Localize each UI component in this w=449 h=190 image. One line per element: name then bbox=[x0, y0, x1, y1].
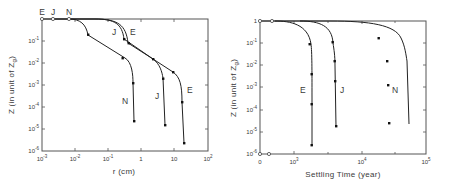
right-curve-j bbox=[275, 21, 336, 127]
left-markers bbox=[87, 34, 185, 145]
right-x-tick-label: 104 bbox=[357, 157, 367, 165]
left-curve-j bbox=[53, 19, 165, 125]
right-y-tick-label: 10-5 bbox=[246, 127, 257, 135]
right-curve-label-n: N bbox=[392, 85, 398, 95]
left-y-tick-label: 10-4 bbox=[28, 102, 39, 110]
left-y-tick-label: 10-5 bbox=[28, 124, 39, 132]
left-x-tick-label: 10-3 bbox=[37, 154, 48, 162]
right-open-marker-origin bbox=[258, 19, 261, 22]
right-open-marker-bottom bbox=[267, 152, 270, 155]
right-open-marker-bottom bbox=[258, 152, 261, 155]
left-top-label-n: N bbox=[66, 7, 72, 17]
right-markers bbox=[309, 37, 391, 146]
left-x-tick-label: 10-2 bbox=[70, 154, 81, 162]
right-curve-n bbox=[300, 21, 409, 124]
left-curve-label-j: J bbox=[112, 27, 116, 37]
left-open-marker-e bbox=[40, 17, 43, 20]
right-x-tick-label: 0 bbox=[258, 159, 262, 165]
left-x-tick-label: 10-1 bbox=[103, 154, 114, 162]
right-x-ticks bbox=[294, 21, 395, 154]
left-curve-label-e: E bbox=[130, 27, 136, 37]
right-open-marker bbox=[270, 19, 273, 22]
right-y-tick-label: 10-2 bbox=[246, 60, 257, 68]
left-x-tick-label: 10 bbox=[171, 156, 178, 162]
right-y-tick-label: 10-4 bbox=[246, 105, 257, 113]
left-y-tick-label: 10-6 bbox=[28, 146, 39, 154]
left-top-label-e: E bbox=[39, 7, 45, 17]
right-chart: 0 103 104 105 1 10-1 10-2 10-3 10-4 10-5… bbox=[229, 18, 431, 179]
right-y-tick-label: 10-1 bbox=[246, 38, 257, 46]
left-chart: 10-3 10-2 10-1 1 10 102 10-1 10-2 10-3 1… bbox=[7, 7, 213, 176]
right-y-tick-label: 1 bbox=[254, 18, 258, 24]
right-y-tick-label: 10-6 bbox=[246, 149, 257, 157]
right-curve-e bbox=[260, 21, 312, 146]
right-curve-label-j: J bbox=[340, 85, 344, 95]
left-curve-label-j2: J bbox=[155, 91, 159, 101]
right-x-tick-label: 103 bbox=[289, 157, 299, 165]
left-x-axis-label: r (cm) bbox=[113, 167, 136, 176]
left-y-axis-label: Z (in unit of Zg) bbox=[7, 56, 17, 114]
left-curve-label-n: N bbox=[122, 96, 128, 106]
right-x-axis-label: Settling Time (year) bbox=[305, 170, 380, 179]
left-open-marker-n bbox=[67, 17, 70, 20]
left-y-tick-label: 10-2 bbox=[28, 58, 39, 66]
right-x-tick-label: 105 bbox=[421, 157, 431, 165]
right-curve-label-e: E bbox=[300, 85, 306, 95]
left-open-marker-j bbox=[51, 17, 54, 20]
left-curve-label-e2: E bbox=[187, 85, 193, 95]
left-y-tick-label: 10-1 bbox=[28, 36, 39, 44]
right-y-axis-label: Z (in unit of Zg) bbox=[229, 59, 239, 117]
left-y-tick-label: 10-3 bbox=[28, 80, 39, 88]
left-top-label-j: J bbox=[51, 7, 55, 17]
left-x-tick-label: 1 bbox=[139, 156, 143, 162]
right-y-tick-label: 10-3 bbox=[246, 82, 257, 90]
figure: 10-3 10-2 10-1 1 10 102 10-1 10-2 10-3 1… bbox=[0, 0, 449, 190]
left-x-tick-label: 102 bbox=[203, 154, 213, 162]
